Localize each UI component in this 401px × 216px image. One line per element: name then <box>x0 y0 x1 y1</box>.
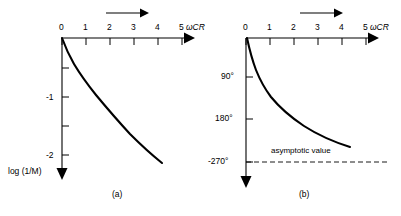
curve-magnitude-a <box>62 38 162 163</box>
panel-b-graphics <box>200 0 401 216</box>
panel-caption-b: (b) <box>299 190 309 199</box>
y-tick-label-a-minus2: -2 <box>46 151 54 160</box>
y-tick-label-a-minus1: -1 <box>46 93 54 102</box>
x-tick-label-b-1: 1 <box>267 23 272 32</box>
panel-a: 0 1 2 3 4 5 -1 -2 ωCR log (1/M) (a) <box>0 0 200 216</box>
x-axis-label-b: ωCR <box>370 23 389 32</box>
x-tick-label-b-0: 0 <box>243 23 248 32</box>
x-ticks-b <box>246 38 366 45</box>
x-axis-arrowhead-b <box>368 33 379 44</box>
x-tick-label-a-3: 3 <box>131 23 136 32</box>
x-ticks-a <box>62 38 182 45</box>
y-tick-label-b-180: 180° <box>215 114 233 123</box>
curve-phase-b <box>247 38 350 147</box>
panel-caption-a: (a) <box>112 190 122 199</box>
x-tick-label-b-4: 4 <box>339 23 344 32</box>
x-tick-label-a-5: 5 <box>179 23 184 32</box>
panel-b: 0 1 2 3 4 5 90° 180° -270° ωCR asymptoti… <box>200 0 400 216</box>
asymptote-annotation-label: asymptotic value <box>271 147 331 155</box>
x-axis-arrowhead-a <box>184 33 195 44</box>
panel-a-graphics <box>0 0 200 216</box>
figure-bode-plots: 0 1 2 3 4 5 -1 -2 ωCR log (1/M) (a) <box>0 0 401 216</box>
y-tick-label-b-270: -270° <box>208 157 228 166</box>
y-ticks-a <box>62 68 69 155</box>
x-tick-label-a-4: 4 <box>155 23 160 32</box>
y-axis-arrowhead-b <box>241 176 252 188</box>
y-axis-label-a: log (1/M) <box>8 167 42 176</box>
x-tick-label-b-5: 5 <box>363 23 368 32</box>
x-tick-label-a-1: 1 <box>83 23 88 32</box>
x-tick-label-b-2: 2 <box>291 23 296 32</box>
x-tick-label-b-3: 3 <box>315 23 320 32</box>
y-ticks-b <box>246 77 253 162</box>
x-tick-label-a-2: 2 <box>107 23 112 32</box>
y-axis-arrowhead-a <box>57 168 68 180</box>
flow-arrow-icon-a <box>106 9 149 18</box>
flow-arrow-icon-b <box>300 9 343 18</box>
x-tick-label-a-0: 0 <box>59 23 64 32</box>
y-tick-label-b-90: 90° <box>221 72 234 81</box>
